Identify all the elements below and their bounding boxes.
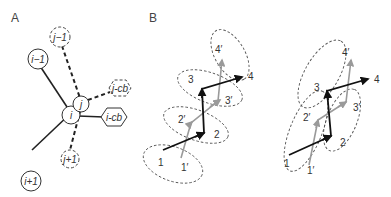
pair-ellipse-3 [173, 62, 247, 113]
figure: A i−1 j−1 j-cb i-cb i [0, 0, 391, 197]
svg-text:4′: 4′ [342, 47, 350, 58]
bond-j-minus-1 [62, 46, 80, 98]
node-j-minus-1: j−1 [50, 27, 70, 47]
svg-text:3′: 3′ [225, 95, 233, 106]
svg-text:j-cb: j-cb [110, 83, 129, 94]
svg-text:1: 1 [284, 158, 290, 169]
svg-text:i-cb: i-cb [106, 112, 123, 123]
svg-text:4: 4 [374, 74, 380, 85]
svg-text:4′: 4′ [215, 44, 223, 55]
svg-text:4: 4 [248, 71, 254, 82]
svg-text:2′: 2′ [303, 112, 311, 123]
svg-text:3′: 3′ [353, 102, 361, 113]
panel-a: A i−1 j−1 j-cb i-cb i [11, 11, 131, 191]
svg-text:j−1: j−1 [51, 32, 67, 43]
panel-b-right: 1 1′ 2 2′ 3 3′ 4 4′ [275, 33, 380, 177]
black-path [163, 77, 242, 150]
panel-b: B 1 1′ 2 2′ 3 3′ 4 4′ [138, 11, 380, 191]
svg-text:2: 2 [214, 129, 220, 140]
svg-text:3: 3 [188, 74, 194, 85]
svg-text:1: 1 [158, 157, 164, 168]
svg-text:2′: 2′ [178, 114, 186, 125]
svg-text:j+1: j+1 [61, 154, 77, 165]
bond-j-cb [88, 92, 110, 100]
panel-b-label: B [149, 11, 157, 25]
svg-text:3: 3 [314, 82, 320, 93]
node-i-cb: i-cb [101, 108, 127, 126]
svg-text:i−1: i−1 [31, 54, 45, 65]
panel-a-label: A [11, 11, 19, 25]
bond-i-cb [78, 116, 104, 117]
svg-text:1′: 1′ [181, 162, 189, 173]
panel-b-left: 1 1′ 2 2′ 3 3′ 4 4′ [138, 23, 257, 190]
node-i-minus-1: i−1 [28, 49, 48, 69]
node-j-cb: j-cb [109, 80, 131, 96]
node-i-plus-1: i+1 [21, 171, 41, 191]
pair-ellipse-2 [159, 99, 233, 150]
svg-text:1′: 1′ [307, 165, 315, 176]
svg-text:2: 2 [340, 137, 346, 148]
bond-i-minus-1 [40, 66, 71, 113]
node-j: j [73, 96, 89, 112]
gray-path-right [309, 60, 351, 165]
node-j-plus-1: j+1 [61, 150, 79, 168]
svg-text:i+1: i+1 [24, 176, 38, 187]
